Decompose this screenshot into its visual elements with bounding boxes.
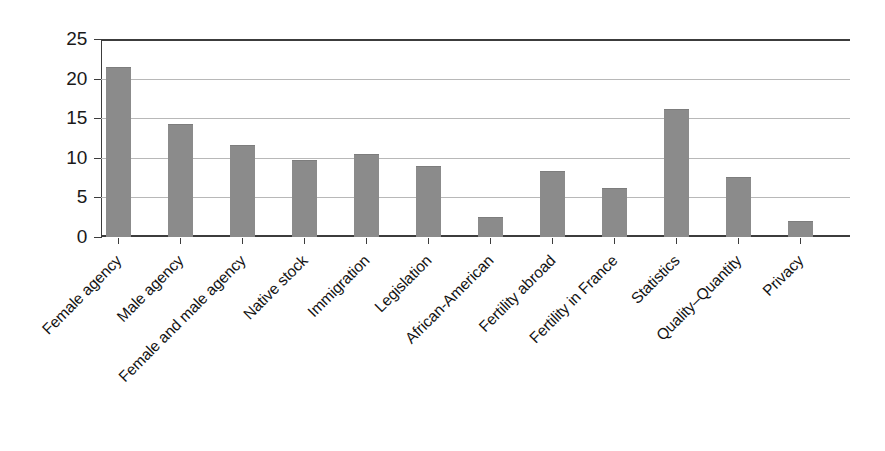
x-axis-category-labels: Female agency Male agency Female and mal… xyxy=(0,0,885,451)
figure-caption xyxy=(180,428,680,442)
bar-chart-figure: 0 5 10 15 20 25 xyxy=(0,0,885,451)
